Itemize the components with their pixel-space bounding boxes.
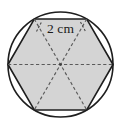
circle-hexagon-diagram: 2 cm: [0, 0, 122, 127]
geometry-figure: 2 cm: [0, 0, 122, 127]
hexagon-center-point: [59, 63, 62, 66]
measurement-label: 2 cm: [47, 21, 74, 36]
